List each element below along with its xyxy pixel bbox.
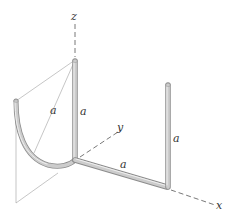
z-axis-label: z [70,10,77,23]
label-arc-chord: a [50,104,57,117]
x-axis [171,190,215,205]
construction-line-base [16,173,58,203]
cap-right-post [165,84,170,86]
rods [15,61,168,187]
cap-left-post [72,60,77,62]
label-horizontal-x: a [120,158,127,171]
label-vertical-post-right: a [173,132,180,145]
curved-rod [16,101,75,166]
rod-caps [14,60,171,102]
y-axis [80,132,118,157]
cap-curved-rod [14,100,19,102]
label-vertical-post-left: a [80,105,87,118]
construction-lines [16,60,75,203]
x-axis-label: x [216,199,223,212]
wire-frame-diagram: z y x a a a a [0,0,233,216]
y-axis-label: y [116,121,124,134]
